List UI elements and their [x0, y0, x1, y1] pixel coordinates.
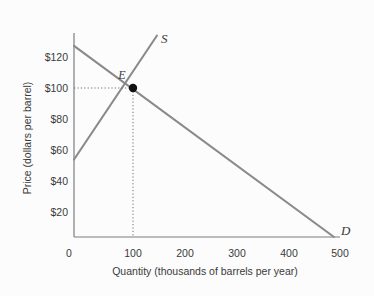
y-axis-tick-labels: $120 $100 $80 $60 $40 $20	[45, 51, 69, 218]
demand-curve-group	[74, 46, 334, 237]
y-axis-title: Price (dollars per barrel)	[21, 82, 33, 195]
x-axis-title: Quantity (thousands of barrels per year)	[112, 265, 298, 277]
chart-canvas: S D E $120 $100 $80 $60 $40 $20 0 100 20…	[0, 0, 374, 296]
y-tick-label-100: $100	[45, 82, 69, 94]
y-tick-label-20: $20	[50, 206, 68, 218]
x-tick-label-200: 200	[176, 247, 194, 259]
y-tick-label-120: $120	[45, 51, 69, 63]
x-axis-tick-labels: 0 100 200 300 400 500	[66, 247, 349, 259]
x-tick-label-0: 0	[66, 247, 72, 259]
supply-curve-label: S	[161, 31, 168, 46]
x-tick-label-400: 400	[280, 247, 298, 259]
equilibrium-point-label: E	[117, 68, 126, 82]
demand-curve	[74, 46, 334, 237]
supply-demand-figure: S D E $120 $100 $80 $60 $40 $20 0 100 20…	[0, 0, 374, 296]
x-tick-label-100: 100	[124, 247, 142, 259]
equilibrium-point-marker	[129, 84, 137, 92]
x-tick-label-500: 500	[331, 247, 349, 259]
y-tick-label-80: $80	[50, 113, 68, 125]
axes-group	[74, 33, 340, 237]
x-tick-label-300: 300	[228, 247, 246, 259]
y-tick-label-60: $60	[50, 144, 68, 156]
y-tick-label-40: $40	[50, 175, 68, 187]
demand-curve-label: D	[340, 223, 351, 238]
equilibrium-guides	[74, 88, 133, 237]
